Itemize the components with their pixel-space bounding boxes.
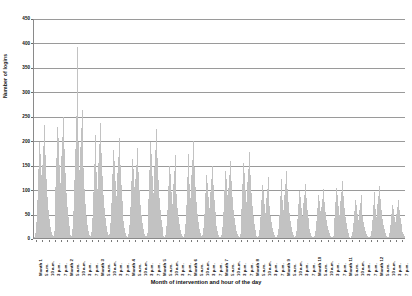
x-tick-mark: [42, 240, 43, 242]
x-tick-label-month: Month 8: [255, 259, 260, 276]
x-tick-mark: [86, 240, 87, 242]
x-tick-mark: [396, 240, 397, 242]
x-tick-mark: [359, 240, 360, 242]
x-tick-mark: [371, 240, 372, 242]
x-tick-label-month: Month 4: [131, 259, 136, 276]
x-tick-label-hour: 7 p.m.: [187, 263, 192, 276]
plot-area: [33, 19, 405, 239]
x-tick-mark: [216, 240, 217, 242]
y-tick-label: 300: [3, 90, 30, 95]
x-tick-label-month: Month 12: [379, 257, 384, 276]
x-tick-label-hour: 5 a.m.: [199, 264, 204, 276]
x-tick-mark: [179, 240, 180, 242]
x-tick-label-hour: 5 a.m.: [44, 264, 49, 276]
x-tick-label-hour: 3 p.m.: [242, 263, 247, 276]
x-tick-label-hour: 7 p.m.: [94, 263, 99, 276]
y-axis-title: Number of logins: [2, 8, 8, 98]
x-tick-mark: [191, 240, 192, 242]
y-tick-label: 350: [3, 65, 30, 70]
x-tick-mark: [104, 240, 105, 242]
x-tick-label-hour: 3 p.m.: [397, 263, 402, 276]
x-tick-mark: [309, 240, 310, 242]
y-tick-label: 450: [3, 16, 30, 21]
x-tick-label-hour: 7 p.m.: [404, 263, 409, 276]
x-tick-label-month: Month 11: [348, 257, 353, 276]
x-tick-label-hour: 5 a.m.: [323, 264, 328, 276]
x-tick-mark: [142, 240, 143, 242]
x-tick-label-hour: 10 a.m.: [360, 261, 365, 276]
x-tick-label-hour: 7 p.m.: [311, 263, 316, 276]
x-tick-mark: [222, 240, 223, 242]
x-tick-label-hour: 10 a.m.: [174, 261, 179, 276]
x-tick-label-month: Month 10: [317, 257, 322, 276]
x-tick-mark: [346, 240, 347, 242]
x-tick-mark: [266, 240, 267, 242]
x-tick-label-month: Month 6: [193, 259, 198, 276]
x-tick-mark: [241, 240, 242, 242]
x-tick-mark: [303, 240, 304, 242]
x-tick-label-hour: 10 a.m.: [298, 261, 303, 276]
x-tick-mark: [92, 240, 93, 242]
x-tick-label-hour: 10 a.m.: [143, 261, 148, 276]
x-tick-label-hour: 3 p.m.: [304, 263, 309, 276]
x-tick-mark: [166, 240, 167, 242]
y-tick-mark: [31, 190, 33, 191]
x-tick-label-hour: 7 p.m.: [218, 263, 223, 276]
x-tick-mark: [272, 240, 273, 242]
y-tick-mark: [31, 68, 33, 69]
y-tick-mark: [31, 117, 33, 118]
x-tick-label-hour: 5 a.m.: [137, 264, 142, 276]
x-tick-mark: [334, 240, 335, 242]
y-tick-label: 100: [3, 188, 30, 193]
x-tick-mark: [73, 240, 74, 242]
x-tick-mark: [148, 240, 149, 242]
x-tick-mark: [321, 240, 322, 242]
y-tick-label: 0: [3, 236, 30, 241]
x-tick-mark: [55, 240, 56, 242]
y-tick-label: 150: [3, 163, 30, 168]
x-tick-label-hour: 7 p.m.: [125, 263, 130, 276]
x-tick-label-hour: 3 p.m.: [273, 263, 278, 276]
y-tick-mark: [31, 92, 33, 93]
y-tick-label: 50: [3, 212, 30, 217]
x-tick-mark: [36, 240, 37, 242]
x-tick-mark: [315, 240, 316, 242]
x-tick-mark: [135, 240, 136, 242]
x-tick-mark: [49, 240, 50, 242]
x-tick-label-month: Month 2: [69, 259, 74, 276]
x-tick-label-hour: 3 p.m.: [366, 263, 371, 276]
x-tick-mark: [117, 240, 118, 242]
x-tick-mark: [402, 240, 403, 242]
x-tick-label-hour: 5 a.m.: [292, 264, 297, 276]
x-tick-mark: [383, 240, 384, 242]
x-tick-label-hour: 10 a.m.: [267, 261, 272, 276]
x-tick-label-month: Month 3: [100, 259, 105, 276]
x-tick-label-hour: 10 a.m.: [391, 261, 396, 276]
x-tick-label-hour: 5 a.m.: [385, 264, 390, 276]
x-tick-label-hour: 5 a.m.: [230, 264, 235, 276]
x-tick-label-hour: 5 a.m.: [106, 264, 111, 276]
x-tick-label-hour: 3 p.m.: [211, 263, 216, 276]
x-tick-label-hour: 3 p.m.: [87, 263, 92, 276]
y-tick-label: 400: [3, 41, 30, 46]
x-tick-mark: [210, 240, 211, 242]
x-tick-label-hour: 7 p.m.: [156, 263, 161, 276]
x-tick-label-hour: 3 p.m.: [118, 263, 123, 276]
x-tick-mark: [154, 240, 155, 242]
x-tick-mark: [204, 240, 205, 242]
x-tick-label-hour: 7 p.m.: [63, 263, 68, 276]
y-tick-label: 250: [3, 114, 30, 119]
x-tick-label-hour: 10 a.m.: [112, 261, 117, 276]
y-tick-mark: [31, 166, 33, 167]
x-tick-mark: [247, 240, 248, 242]
x-tick-label-hour: 7 p.m.: [249, 263, 254, 276]
y-tick-mark: [31, 19, 33, 20]
x-tick-label-month: Month 5: [162, 259, 167, 276]
x-tick-mark: [365, 240, 366, 242]
x-tick-mark: [340, 240, 341, 242]
x-tick-label-hour: 5 a.m.: [261, 264, 266, 276]
x-tick-label-month: Month 7: [224, 259, 229, 276]
x-tick-label-hour: 5 a.m.: [168, 264, 173, 276]
x-tick-label-hour: 7 p.m.: [342, 263, 347, 276]
y-tick-mark: [31, 215, 33, 216]
